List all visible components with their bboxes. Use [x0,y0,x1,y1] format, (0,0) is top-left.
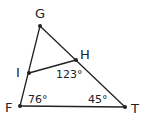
triangle-diagram: G H I F T 123° 76° 45° [0,0,150,124]
angle-label-123: 123° [56,68,83,81]
point-H [74,58,78,62]
point-G [38,24,42,28]
label-H: H [80,47,90,62]
segment-FT [20,106,125,107]
label-F: F [5,100,12,115]
point-F [18,104,22,108]
label-T: T [130,101,139,116]
point-T [123,105,127,109]
angle-label-45: 45° [88,93,108,106]
point-I [27,71,31,75]
angle-label-76: 76° [28,93,48,106]
label-I: I [16,65,20,80]
label-G: G [35,6,45,21]
